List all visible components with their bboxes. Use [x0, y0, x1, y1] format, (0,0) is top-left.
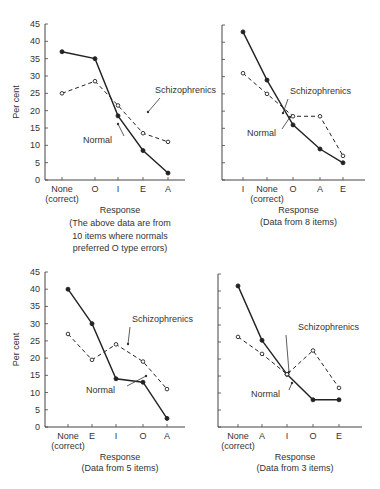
normal-marker [141, 380, 145, 384]
x-tick-label: A [165, 184, 171, 194]
caption-line: (The above data are from [69, 218, 171, 228]
caption: (Data from 3 items) [256, 463, 333, 473]
schizophrenics-marker [166, 140, 170, 144]
arrow-icon [118, 124, 124, 136]
normal-label: Normal [247, 128, 276, 138]
schizophrenics-marker [341, 154, 345, 158]
schizophrenics-marker [236, 335, 240, 339]
normal-marker [90, 322, 94, 326]
normal-label: Normal [86, 385, 115, 395]
normal-line [68, 289, 167, 418]
schizophrenics-marker [141, 131, 145, 135]
x-tick-label: (correct) [221, 441, 255, 451]
arrowhead-icon [291, 382, 293, 384]
x-tick-label: I [286, 431, 289, 441]
y-tick-label: 45 [30, 267, 40, 277]
x-axis-label: Response [100, 452, 141, 462]
caption-line: preferred O type errors) [73, 243, 168, 253]
y-tick-label: 10 [30, 140, 40, 150]
normal-line [243, 32, 343, 163]
normal-marker [291, 123, 295, 127]
schizophrenics-marker [60, 92, 64, 96]
x-tick-label: None [57, 431, 79, 441]
y-tick-label: 20 [30, 353, 40, 363]
y-tick-label: 15 [30, 370, 40, 380]
normal-marker [66, 287, 70, 291]
schizophrenics-marker [165, 387, 169, 391]
schizophrenics-marker [116, 104, 120, 108]
schizophrenics-marker [66, 332, 70, 336]
x-tick-label: None [256, 184, 278, 194]
arrowhead-icon [117, 123, 119, 125]
schizophrenics-marker [318, 114, 322, 118]
normal-marker [311, 398, 315, 402]
y-tick-label: 30 [30, 319, 40, 329]
x-tick-label: O [91, 184, 98, 194]
x-tick-label: A [164, 431, 170, 441]
y-tick-label: 35 [30, 301, 40, 311]
normal-marker [166, 171, 170, 175]
schizophrenics-marker [93, 79, 97, 83]
arrowhead-icon [282, 112, 284, 114]
schizophrenics-label: Schizophrenics [132, 314, 194, 324]
normal-marker [337, 398, 341, 402]
x-tick-label: A [317, 184, 323, 194]
y-tick-label: 25 [30, 88, 40, 98]
normal-marker [141, 149, 145, 153]
arrow-icon [286, 335, 289, 372]
normal-marker [341, 161, 345, 165]
y-tick-label: 5 [35, 405, 40, 415]
normal-marker [93, 57, 97, 61]
schizophrenics-label: Schizophrenics [298, 322, 360, 332]
x-tick-label: I [115, 431, 118, 441]
x-tick-label: I [117, 184, 120, 194]
caption: (Data from 5 items) [81, 463, 158, 473]
chart-panel-bottom-right: None(correct)AIOEResponse(Data from 3 it… [218, 274, 362, 473]
x-axis-label: Response [100, 205, 141, 215]
schizophrenics-label: Schizophrenics [155, 85, 217, 95]
x-tick-label: O [139, 431, 146, 441]
normal-line [62, 52, 168, 173]
x-tick-label: E [89, 431, 95, 441]
arrow-icon [128, 327, 130, 344]
x-tick-label: E [140, 184, 146, 194]
normal-marker [241, 30, 245, 34]
chart-panel-bottom-left: 051015202530354045Per centNone(correct)E… [11, 267, 194, 473]
x-tick-label: None [227, 431, 249, 441]
x-tick-label: (correct) [250, 194, 284, 204]
schizophrenics-line [68, 334, 167, 389]
normal-marker [114, 377, 118, 381]
arrowhead-icon [289, 116, 291, 118]
y-tick-label: 45 [30, 19, 40, 29]
arrowhead-icon [288, 371, 290, 373]
y-tick-label: 15 [30, 123, 40, 133]
schizophrenics-marker [141, 360, 145, 364]
arrowhead-icon [145, 375, 147, 377]
y-tick-label: 35 [30, 54, 40, 64]
schizophrenics-marker [265, 92, 269, 96]
x-tick-label: E [336, 431, 342, 441]
y-tick-label: 40 [30, 36, 40, 46]
normal-label: Normal [83, 135, 112, 145]
arrowhead-icon [127, 343, 129, 345]
normal-marker [165, 416, 169, 420]
schizophrenics-marker [291, 114, 295, 118]
y-tick-label: 5 [35, 158, 40, 168]
normal-label: Normal [251, 389, 280, 399]
y-tick-label: 20 [30, 106, 40, 116]
normal-marker [265, 78, 269, 82]
normal-line [238, 286, 339, 400]
x-tick-label: (correct) [51, 441, 85, 451]
schizophrenics-line [62, 81, 168, 142]
schizophrenics-marker [311, 349, 315, 353]
figure: 051015202530354045Per centNone(correct)O… [0, 0, 380, 489]
arrowhead-icon [147, 111, 149, 113]
caption-line: 10 items where normals [72, 231, 168, 241]
x-tick-label: (correct) [45, 194, 79, 204]
normal-marker [318, 147, 322, 151]
schizophrenics-marker [285, 373, 289, 377]
arrow-icon [282, 117, 290, 129]
y-axis-label: Per cent [11, 332, 21, 366]
x-tick-label: I [242, 184, 245, 194]
schizophrenics-marker [241, 71, 245, 75]
